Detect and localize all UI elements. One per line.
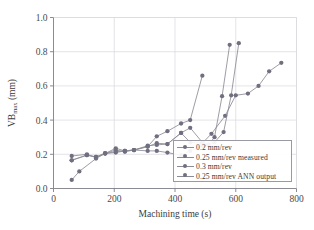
data-point [132,148,136,152]
data-point [94,156,98,160]
data-point [188,126,192,130]
chart-figure: 02004006008000.00.20.40.60.81.0 Machinin… [0,0,314,230]
legend-marker-icon [177,172,194,181]
plot-canvas: 02004006008000.00.20.40.60.81.0 Machinin… [0,0,314,230]
y-tick-label: 0.8 [36,47,48,57]
data-point [234,93,238,97]
x-tick-label: 800 [289,194,304,204]
y-tick-label: 0.2 [36,150,48,160]
legend-label: 0.2 mm/rev [194,143,232,153]
legend-label: 0.25 mm/rev ANN output [194,172,276,182]
data-point [165,142,169,146]
data-point [70,154,74,158]
data-point [179,131,183,135]
legend-item-1: 0.25 mm/rev measured [177,153,288,163]
legend-item-3: 0.25 mm/rev ANN output [177,172,288,182]
data-point [155,134,159,138]
data-point [212,135,216,139]
legend-label: 0.3 mm/rev [194,162,232,172]
data-point [85,153,89,157]
x-tick-label: 0 [51,194,56,204]
x-axis-title: Machining time (s) [139,209,212,220]
y-tick-label: 0.6 [36,81,48,91]
legend-item-2: 0.3 mm/rev [177,162,288,172]
data-point [256,84,260,88]
legend-item-0: 0.2 mm/rev [177,143,288,153]
data-point [123,149,127,153]
data-point [77,169,81,173]
x-tick-label: 200 [107,194,122,204]
data-point [146,144,150,148]
x-tick-label: 400 [168,194,183,204]
x-tick-label: 600 [229,194,244,204]
data-point [165,129,169,133]
y-axis-title: VBmax (mm) [7,79,18,127]
data-point [229,93,233,97]
data-point [70,178,74,182]
data-point [221,130,225,134]
data-point [155,141,159,145]
data-point [155,149,159,153]
data-point [228,43,232,47]
legend-marker-icon [177,153,194,162]
data-point [188,118,192,122]
data-point [70,158,74,162]
data-point [220,94,224,98]
data-point [165,150,169,154]
data-point [146,149,150,153]
data-point [267,69,271,73]
data-point [103,151,107,155]
data-point [114,150,118,154]
legend-label: 0.25 mm/rev measured [194,153,268,163]
data-point [200,73,204,77]
y-tick-label: 0.4 [36,116,48,126]
legend-marker-icon [177,143,194,152]
legend-marker-icon [177,162,194,171]
chart-legend: 0.2 mm/rev 0.25 mm/rev measured 0.3 mm/r… [173,140,292,182]
y-tick-label: 1.0 [36,13,48,23]
data-point [246,91,250,95]
data-point [179,121,183,125]
data-point [237,41,241,45]
data-point [279,61,283,65]
data-point [209,132,213,136]
y-tick-label: 0.0 [36,184,48,194]
